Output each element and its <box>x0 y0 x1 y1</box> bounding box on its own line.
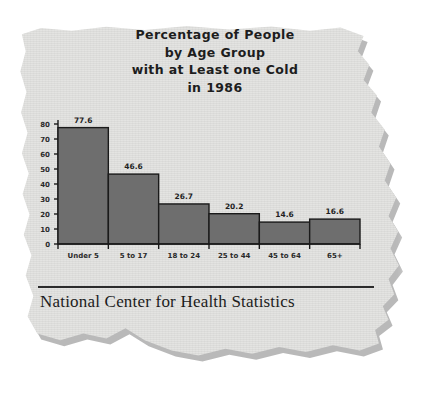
y-axis-tick-label: 0 <box>45 241 50 249</box>
bar-chart: 8070605040302010077.6Under 546.65 to 172… <box>14 96 374 276</box>
y-axis-tick-label: 40 <box>40 181 50 189</box>
title-line-3: with at Least one Cold <box>0 61 430 79</box>
y-axis-tick-label: 60 <box>40 151 50 159</box>
x-axis-category-label: 65+ <box>327 252 343 260</box>
x-axis-category-label: 18 to 24 <box>168 252 201 260</box>
x-axis-category-label: 5 to 17 <box>120 252 148 260</box>
y-axis-tick-label: 80 <box>40 121 50 129</box>
bar-value-label: 77.6 <box>74 116 93 125</box>
bar <box>310 219 360 244</box>
y-axis-tick-label: 50 <box>40 166 50 174</box>
bar-value-label: 26.7 <box>175 192 194 201</box>
bar <box>259 222 309 244</box>
y-axis-tick-label: 30 <box>40 196 50 204</box>
title-line-4: in 1986 <box>0 79 430 97</box>
x-axis-category-label: 45 to 64 <box>268 252 301 260</box>
bar-value-label: 14.6 <box>275 210 294 219</box>
y-axis-tick-label: 70 <box>40 136 50 144</box>
bar <box>58 128 108 244</box>
title-line-1: Percentage of People <box>0 26 430 44</box>
x-axis-category-label: Under 5 <box>68 252 99 260</box>
newspaper-clipping-screenshot: Percentage of People by Age Group with a… <box>0 0 430 404</box>
bar <box>108 174 158 244</box>
bar-value-label: 46.6 <box>124 162 143 171</box>
bar <box>159 204 209 244</box>
bar-value-label: 20.2 <box>225 202 244 211</box>
x-axis-category-label: 25 to 44 <box>218 252 251 260</box>
chart-title: Percentage of People by Age Group with a… <box>0 26 430 96</box>
title-line-2: by Age Group <box>0 44 430 62</box>
bar-value-label: 16.6 <box>326 207 345 216</box>
bar <box>209 214 259 244</box>
source-divider-rule <box>38 286 374 288</box>
y-axis-tick-label: 20 <box>40 211 50 219</box>
source-attribution: National Center for Health Statistics <box>40 292 295 312</box>
y-axis-tick-label: 10 <box>40 226 50 234</box>
